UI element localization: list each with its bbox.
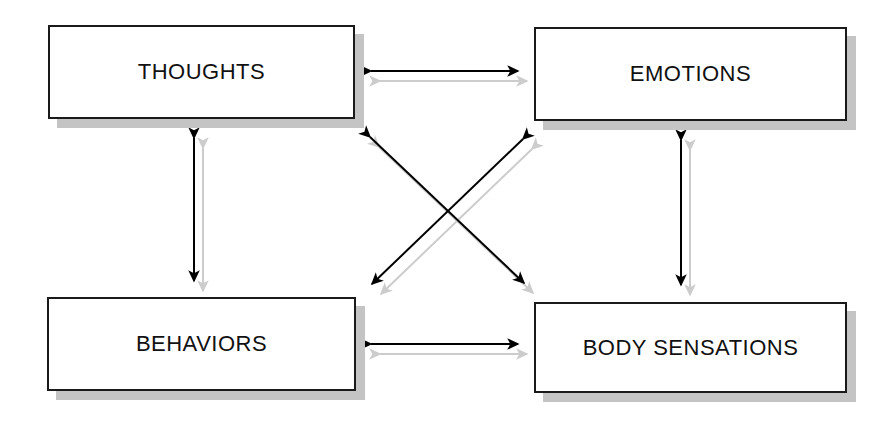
- node-behaviors[interactable]: BEHAVIORS: [47, 297, 356, 391]
- node-label-body-sensations: BODY SENSATIONS: [583, 337, 799, 359]
- node-label-thoughts: THOUGHTS: [138, 61, 265, 83]
- connector-emotions-behaviors: [372, 139, 523, 284]
- node-label-behaviors: BEHAVIORS: [136, 333, 267, 355]
- node-thoughts[interactable]: THOUGHTS: [48, 25, 355, 119]
- diagram-canvas: THOUGHTS EMOTIONS BEHAVIORS BODY SENSATI…: [0, 0, 892, 425]
- connector-shadow-emotions-behaviors: [381, 149, 532, 294]
- connector-shadow-thoughts-body-sensations: [379, 147, 533, 293]
- connector-thoughts-body-sensations: [370, 137, 524, 283]
- node-emotions[interactable]: EMOTIONS: [534, 27, 847, 121]
- node-body-sensations[interactable]: BODY SENSATIONS: [534, 302, 847, 393]
- node-label-emotions: EMOTIONS: [630, 63, 751, 85]
